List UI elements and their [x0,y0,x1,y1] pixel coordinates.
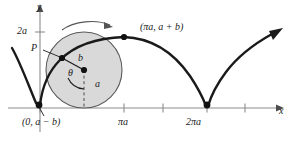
x-tick-label-2pia: 2πa [186,117,201,127]
label-radius-a: a [95,79,100,89]
label-angle-theta: θ [68,68,73,78]
y-axis-label: y [37,2,41,12]
cycloid-figure: y x 2a P b a θ (πa, a + b) (0, a − b) πa… [0,0,292,141]
point-top-dot [121,34,127,40]
curve-arrowhead [269,28,283,40]
label-origin-point: (0, a − b) [22,117,60,127]
trochoid-curve-left-tail [12,48,36,103]
rotation-arc [62,22,110,30]
label-top-point: (πa, a + b) [140,22,183,32]
label-radius-b: b [78,53,83,63]
point-P-dot [59,55,65,61]
rotation-arrowhead-icon [104,22,113,29]
label-point-p: P [31,43,37,53]
trochoid-curve-arch-two [208,34,272,106]
x-axis-label: x [279,106,283,116]
x-tick-label-pia: πa [118,117,128,127]
point-2pia-dot [204,102,211,109]
y-tick-label-2a: 2a [17,26,27,36]
circle-center-dot [81,67,87,73]
